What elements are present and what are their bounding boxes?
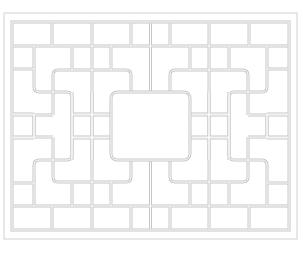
lattice-pattern <box>0 0 305 259</box>
center-panel <box>111 92 190 160</box>
